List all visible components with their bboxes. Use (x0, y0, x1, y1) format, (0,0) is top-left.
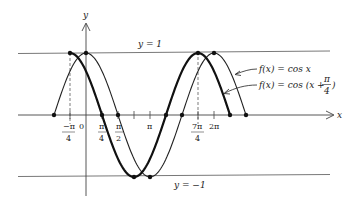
svg-text:4: 4 (195, 134, 200, 143)
y-equals-neg1-line (18, 175, 330, 177)
cosine-graph: x y y = 1 y = −1 −π (0, 0, 353, 199)
legend-close-paren: ) (331, 80, 336, 90)
legend-cos-x: f(x) = cos x (258, 64, 311, 74)
x-axis-label: x (337, 110, 342, 120)
svg-text:0: 0 (79, 122, 84, 131)
legend-frac-num: π (323, 74, 331, 84)
y-equals-1-label: y = 1 (137, 39, 162, 49)
svg-text:π: π (116, 122, 121, 131)
legend-cos-shift: f(x) = cos (x + (258, 80, 325, 90)
svg-text:π: π (147, 122, 152, 131)
svg-text:π: π (99, 122, 104, 131)
svg-text:7π: 7π (192, 122, 202, 131)
svg-text:−π: −π (63, 122, 75, 131)
y-equals-1-line (18, 51, 330, 54)
svg-text:2π: 2π (209, 122, 219, 131)
svg-text:4: 4 (66, 134, 71, 143)
y-axis-label: y (82, 10, 89, 20)
svg-text:4: 4 (99, 134, 104, 143)
svg-text:2: 2 (116, 134, 121, 143)
y-equals-neg1-label: y = −1 (173, 180, 206, 190)
cos-shift-pointer (225, 85, 257, 93)
legend-frac-den: 4 (323, 86, 330, 96)
